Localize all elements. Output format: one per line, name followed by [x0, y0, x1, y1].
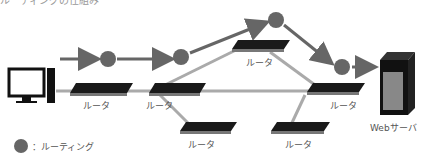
router-label: ルータ: [285, 138, 312, 151]
router-icon: [149, 83, 206, 96]
router-icon: [307, 83, 365, 95]
router-label: ルータ: [188, 138, 215, 151]
router-label: ルータ: [146, 99, 173, 112]
router-icon: [271, 122, 330, 134]
router-icon: [232, 40, 290, 52]
router-icon: [180, 122, 237, 134]
router-icon: [70, 83, 133, 96]
routing-dots: [100, 12, 350, 75]
web-server-label: Webサーバ: [370, 121, 417, 134]
router-label: ルータ: [246, 56, 273, 69]
pc-icon: [9, 68, 55, 103]
legend-label: ：ルーティング: [32, 140, 94, 153]
router-label: ルータ: [330, 99, 357, 112]
legend-dot-icon: [14, 139, 28, 153]
router-label: ルータ: [83, 99, 110, 112]
web-server-icon: [380, 52, 415, 115]
